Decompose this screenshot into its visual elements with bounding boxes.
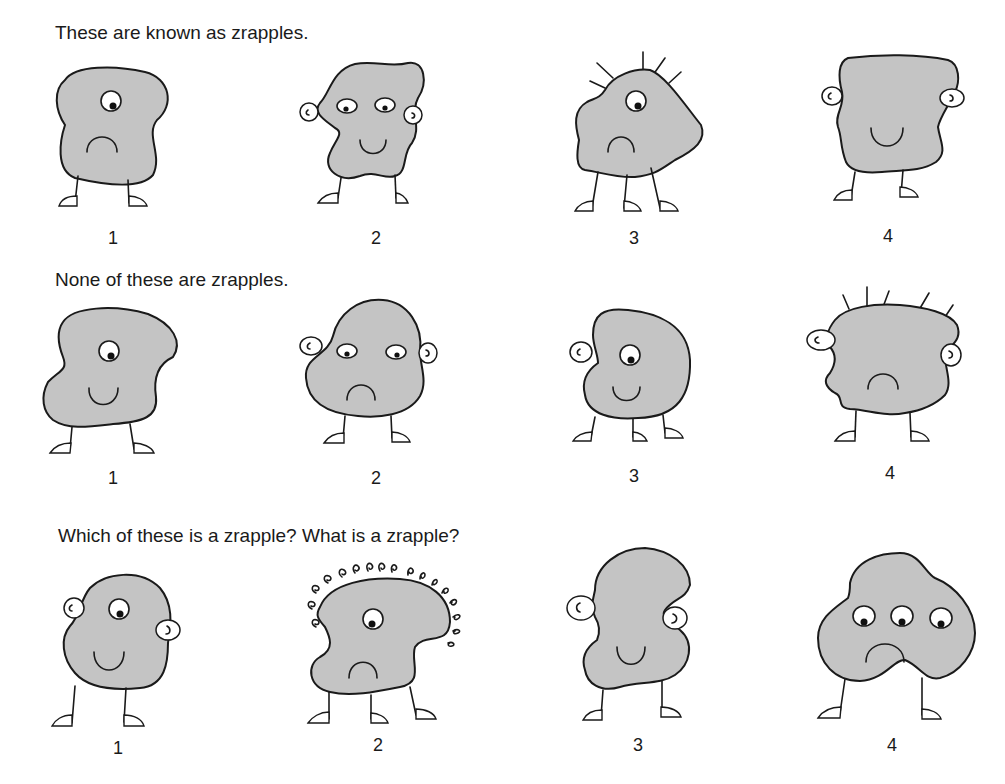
zrapple-4-label: 4 <box>883 226 893 247</box>
non-zrapple-2-creature <box>298 296 443 451</box>
candidate-3-label: 3 <box>633 735 643 756</box>
candidate-2-creature <box>300 557 465 732</box>
zrapple-3-label: 3 <box>629 228 639 249</box>
section-1-heading: These are known as zrapples. <box>55 22 308 44</box>
section-2-heading: None of these are zrapples. <box>55 269 288 291</box>
non-zrapple-4-label: 4 <box>885 463 895 484</box>
candidate-4-label: 4 <box>887 735 897 756</box>
candidate-1-creature <box>50 568 190 733</box>
non-zrapple-4-creature <box>805 285 970 450</box>
non-zrapple-3-creature <box>563 305 703 445</box>
zrapple-1-creature <box>45 60 185 210</box>
section-3-heading: Which of these is a zrapple? What is a z… <box>58 525 459 547</box>
non-zrapple-3-label: 3 <box>629 466 639 487</box>
candidate-1-label: 1 <box>113 738 123 759</box>
zrapple-4-creature <box>820 52 970 207</box>
candidate-2-label: 2 <box>373 735 383 756</box>
candidate-4-creature <box>810 548 990 733</box>
zrapple-1-label: 1 <box>108 228 118 249</box>
candidate-3-creature <box>565 545 710 730</box>
zrapple-2-label: 2 <box>371 228 381 249</box>
non-zrapple-1-creature <box>38 302 188 457</box>
zrapple-3-creature <box>565 50 715 215</box>
zrapple-2-creature <box>300 58 430 208</box>
non-zrapple-2-label: 2 <box>371 468 381 489</box>
non-zrapple-1-label: 1 <box>108 468 118 489</box>
